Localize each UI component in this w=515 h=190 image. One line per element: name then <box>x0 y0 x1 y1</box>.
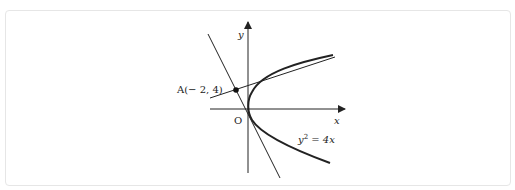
tangent-line-steep <box>208 34 280 178</box>
y-axis-label: y <box>237 29 244 40</box>
tangent-line-shallow <box>210 57 335 98</box>
equation-label: y2 = 4x <box>297 133 335 145</box>
equation-rest: = 4x <box>308 134 335 145</box>
point-a-dot <box>233 87 239 93</box>
x-axis-label: x <box>334 115 340 126</box>
parabola-diagram: y x O A(− 2, 4) y2 = 4x <box>0 0 515 190</box>
origin-label: O <box>234 115 242 126</box>
point-a-label: A(− 2, 4) <box>176 84 223 95</box>
